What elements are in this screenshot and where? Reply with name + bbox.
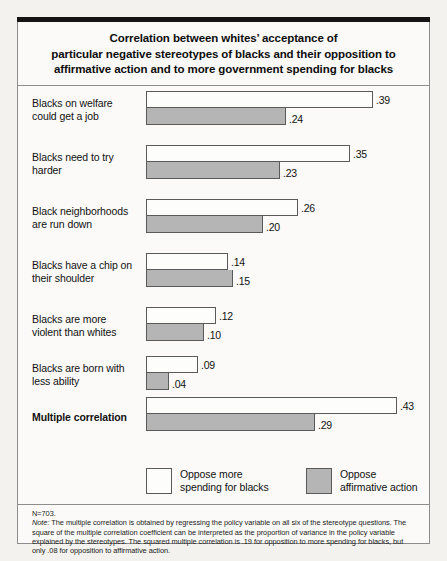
bar-pair: .43.29 — [146, 397, 397, 431]
category-label-line-1: Blacks on welfare — [32, 97, 147, 110]
bar-oppose-spending: .39 — [146, 91, 373, 108]
bar-oppose-affirmative-action: .24 — [146, 108, 286, 125]
chart-title: Correlation between whites’ acceptance o… — [18, 22, 429, 86]
bar-value-label: .43 — [400, 400, 414, 412]
bar-pair: .39.24 — [146, 91, 373, 125]
bar-value-label: .35 — [353, 148, 367, 160]
category-label: Multiple correlation — [32, 411, 147, 424]
bar-oppose-spending: .26 — [146, 199, 298, 216]
category-label-line-1: Blacks are more — [32, 313, 147, 326]
bar-oppose-spending: .12 — [146, 307, 216, 324]
category-label-line-2: their shoulder — [32, 272, 147, 285]
bar-oppose-affirmative-action: .10 — [146, 324, 204, 341]
legend-label-affirmative-line-1: Oppose — [340, 468, 417, 481]
bar-value-label: .10 — [207, 329, 221, 341]
category-label: Blacks are born withless ability — [32, 362, 147, 388]
note-label: Note: — [32, 518, 49, 527]
bar-value-label: .29 — [318, 419, 332, 431]
category-label: Blacks are moreviolent than whites — [32, 313, 147, 339]
category-label-line-1: Blacks need to try — [32, 151, 147, 164]
bar-pair: .14.15 — [146, 253, 233, 287]
bar-oppose-affirmative-action: .23 — [146, 162, 280, 179]
note-body: Note: The multiple correlation is obtain… — [32, 518, 417, 555]
bar-value-label: .23 — [283, 167, 297, 179]
bar-value-label: .12 — [219, 310, 233, 322]
bar-oppose-spending: .35 — [146, 145, 350, 162]
note-text: The multiple correlation is obtained by … — [32, 518, 406, 555]
category-label: Blacks on welfarecould get a job — [32, 97, 147, 123]
legend-item-oppose-spending: Oppose more spending for blacks — [146, 468, 306, 494]
category-label-line-2: less ability — [32, 375, 147, 388]
chart-title-line-2: particular negative stereotypes of black… — [32, 47, 415, 63]
category-label: Blacks have a chip ontheir shoulder — [32, 259, 147, 285]
category-label-line-1: Blacks are born with — [32, 362, 147, 375]
bar-oppose-affirmative-action: .20 — [146, 216, 263, 233]
bar-value-label: .14 — [231, 256, 245, 268]
bar-oppose-affirmative-action: .15 — [146, 270, 233, 287]
category-label-line-2: are run down — [32, 218, 147, 231]
legend-item-oppose-affirmative-action: Oppose affirmative action — [306, 468, 417, 494]
chart-title-line-3: affirmative action and to more governmen… — [32, 62, 415, 78]
bar-value-label: .04 — [172, 378, 186, 390]
legend-label-affirmative-line-2: affirmative action — [340, 481, 417, 494]
bar-value-label: .20 — [266, 221, 280, 233]
legend-swatch-open — [146, 468, 172, 494]
bar-pair: .35.23 — [146, 145, 350, 179]
category-label-line-1: Black neighborhoods — [32, 205, 147, 218]
category-label-line-2: violent than whites — [32, 326, 147, 339]
chart-title-line-1: Correlation between whites’ acceptance o… — [32, 31, 415, 47]
category-label: Blacks need to tryharder — [32, 151, 147, 177]
category-label-line-2: could get a job — [32, 110, 147, 123]
bar-oppose-affirmative-action: .04 — [146, 373, 169, 390]
bar-oppose-affirmative-action: .29 — [146, 414, 315, 431]
sample-size: N=703. — [32, 509, 417, 518]
note-divider — [18, 504, 429, 505]
bar-value-label: .39 — [376, 94, 390, 106]
category-label-line-1: Blacks have a chip on — [32, 259, 147, 272]
legend-swatch-filled — [306, 468, 332, 494]
legend-label-spending-line-2: spending for blacks — [180, 481, 269, 494]
bar-oppose-spending: .14 — [146, 253, 228, 270]
chart-legend: Oppose more spending for blacks Oppose a… — [146, 468, 417, 494]
bar-pair: .09.04 — [146, 356, 198, 390]
bar-value-label: .09 — [201, 359, 215, 371]
legend-label-spending-line-1: Oppose more — [180, 468, 269, 481]
bar-value-label: .15 — [236, 275, 250, 287]
bar-oppose-spending: .09 — [146, 356, 198, 373]
bar-pair: .26.20 — [146, 199, 298, 233]
figure-frame: Correlation between whites’ acceptance o… — [17, 22, 430, 544]
category-label: Black neighborhoodsare run down — [32, 205, 147, 231]
plot-area: Blacks on welfarecould get a job.39.24Bl… — [18, 86, 429, 430]
category-label-line-2: harder — [32, 164, 147, 177]
top-rule — [17, 17, 430, 22]
category-label-line-1: Multiple correlation — [32, 411, 147, 424]
bar-pair: .12.10 — [146, 307, 216, 341]
bar-oppose-spending: .43 — [146, 397, 397, 414]
chart-note: N=703. Note: The multiple correlation is… — [32, 509, 417, 555]
bar-value-label: .26 — [301, 202, 315, 214]
bar-value-label: .24 — [289, 113, 303, 125]
